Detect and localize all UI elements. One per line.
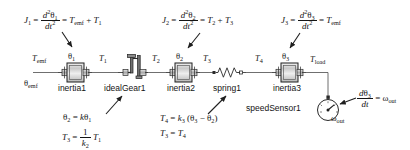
arrow-sensoreq-to-sensor [340, 98, 356, 104]
spring-eq-equals: = [170, 113, 177, 123]
eq-j3-lhs-sub: 3 [285, 19, 288, 26]
port-label-theta-2: θ2 [176, 52, 183, 61]
eq-j3-num-var: θ [307, 10, 311, 20]
theta-3-sub: 3 [286, 55, 289, 62]
eq-j1-num-var: θ [50, 10, 54, 20]
equation-spring-torque: T4 = k3 (θ3 − θ2) [160, 114, 217, 123]
t-4-sub: 4 [260, 57, 263, 64]
component-label-idealgear1: idealGear1 [104, 84, 146, 93]
eq-j2-lhs-sub: 2 [166, 19, 169, 26]
eq-j1-den-sup: 2 [52, 19, 55, 26]
eq-j1-op: + [86, 15, 91, 25]
eq-j1-equals: = [33, 15, 40, 25]
eq-j3-equals: = [290, 15, 297, 25]
eq-j3-den-sup: 2 [309, 19, 312, 26]
spring-eq-paren-close: ) [214, 113, 217, 123]
gear-eq2-t3-sub: 3 [67, 136, 70, 143]
spring-eq2-t3-sub: 3 [165, 132, 168, 139]
port-label-omega-out: ωout [331, 114, 345, 123]
t-3-sub: 3 [208, 57, 211, 64]
sensor-eq-omega-sub: out [388, 97, 396, 104]
theta-emf-sub: emf [28, 82, 38, 89]
arrow-geareq-to-gear [106, 96, 122, 114]
component-inertia2[interactable] [166, 63, 200, 82]
spring-eq-k-sub: 3 [182, 117, 185, 124]
component-inertia3[interactable] [272, 63, 306, 82]
component-label-speedsensor1: speedSensor1 [246, 104, 301, 113]
eq-j1-lhs-sub: 1 [28, 19, 31, 26]
gear-eq-theta2-sub: 2 [67, 116, 70, 123]
spring-eq-theta2-sub: 2 [211, 117, 214, 124]
eq-j1-rhs2-sub: 1 [98, 19, 101, 26]
spring-eq-theta3-sub: 3 [194, 117, 197, 124]
sensor-eq-num-var-sub: 3 [368, 92, 371, 99]
gear-eq2-num: 1 [83, 127, 88, 137]
theta-2-sub: 2 [180, 55, 183, 62]
gear-eq2-t1-sub: 1 [98, 136, 101, 143]
eq-j2-rhs2-sub: 3 [230, 19, 233, 26]
gear-eq-theta1-sub: 1 [88, 116, 91, 123]
port-label-t-emf: Temf [32, 54, 46, 63]
port-label-theta-emf: θemf [24, 79, 38, 88]
diagram-canvas: J1 = d2θ1 dt2 = Temf + T1 J2 = d2θ2 dt2 … [0, 0, 410, 150]
equation-speed-sensor: dθ3 dt = ωout [357, 88, 396, 110]
component-label-spring1: spring1 [213, 84, 241, 93]
equation-j3: J3 = d2θ3 dt2 = Temf [281, 10, 341, 32]
port-label-t-load: Tload [310, 55, 325, 64]
component-idealgear1[interactable] [118, 55, 148, 79]
eq-j1-num-sup: 2 [47, 8, 50, 15]
equation-j2: J2 = d2θ2 dt2 = T2 + T3 [162, 10, 233, 32]
port-label-t-1: T1 [99, 54, 107, 63]
sensor-eq-den: dt [361, 99, 368, 109]
spring-eq-t4-sub: 4 [165, 117, 168, 124]
eq-j1-num-var-sub: 1 [55, 14, 58, 21]
eq-j2-den-sup: 2 [190, 19, 193, 26]
equation-gear-ratio: θ2 = kθ1 [63, 113, 91, 122]
equation-spring-balance: T3 = T4 [160, 129, 186, 138]
equation-gear-torque: T3 = 1 k2 T1 [62, 127, 101, 149]
eq-j2-equals: = [171, 15, 178, 25]
eq-j2-num-var-sub: 2 [193, 14, 196, 21]
eq-j3-num-sup: 2 [304, 8, 307, 15]
eq-j2-op: + [218, 15, 223, 25]
eq-j2-num-var: θ [188, 10, 192, 20]
gear-eq2-equals: = [72, 132, 79, 142]
annotation-arrows [62, 32, 356, 114]
theta-1-sub: 1 [72, 55, 75, 62]
eq-j2-derivative: d2θ2 dt2 [179, 10, 198, 32]
component-spring1[interactable] [213, 68, 247, 77]
port-label-t-4: T4 [255, 54, 263, 63]
spring-eq2-t4: T [178, 128, 183, 138]
t-load-sub: load [315, 58, 326, 65]
eq-j1-derivative: d2θ1 dt2 [41, 10, 60, 32]
component-label-inertia3: inertia3 [273, 84, 301, 93]
port-label-t-2: T2 [152, 54, 160, 63]
gear-eq2-fraction: 1 k2 [80, 127, 91, 149]
gear-eq-equals: = [73, 112, 80, 122]
t-emf-sub: emf [37, 57, 47, 64]
port-label-theta-3: θ3 [282, 52, 289, 61]
eq-j2-num-sup: 2 [185, 8, 188, 15]
arrow-springeq-to-spring [208, 96, 226, 114]
component-label-inertia1: inertia1 [58, 84, 86, 93]
gear-eq2-den-sub: 2 [86, 142, 89, 149]
arrow-eq3-to-inertia3 [290, 33, 300, 48]
omega-out-sub: out [337, 117, 345, 124]
port-label-t-3: T3 [203, 54, 211, 63]
equation-j1: J1 = d2θ1 dt2 = Temf + T1 [24, 10, 102, 32]
t-1-sub: 1 [104, 57, 107, 64]
arrow-eq1-to-inertia1 [62, 32, 72, 47]
eq-j2-rhs-sub: 2 [212, 19, 215, 26]
spring-eq2-equals: = [170, 128, 177, 138]
t-2-sub: 2 [157, 57, 160, 64]
eq-j1-rhs-sub: emf [74, 19, 84, 26]
arrow-eq2-to-inertia2 [188, 33, 200, 48]
spring-eq2-t4-sub: 4 [183, 132, 186, 139]
sensor-eq-derivative: dθ3 dt [357, 88, 373, 110]
eq-j3-rhs-sub: emf [331, 19, 341, 26]
spring-eq-minus: − [200, 113, 205, 123]
omega-out-base: ω [331, 113, 337, 123]
port-label-theta-1: θ1 [68, 52, 75, 61]
component-label-inertia2: inertia2 [167, 84, 195, 93]
component-inertia1[interactable] [58, 63, 92, 82]
